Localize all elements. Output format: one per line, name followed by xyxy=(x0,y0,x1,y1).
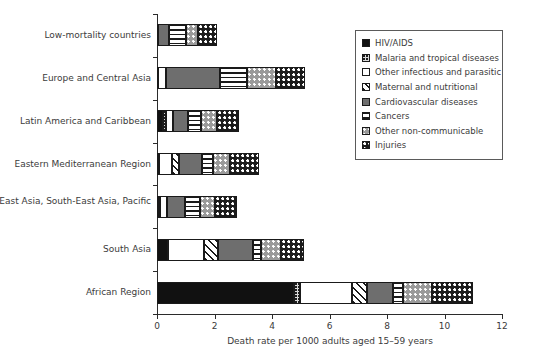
bar-segment-cancers xyxy=(188,110,201,132)
legend-label: Malaria and tropical diseases xyxy=(375,53,499,63)
stacked-bar-chart: 024681012 Low-mortality countriesEurope … xyxy=(0,0,534,359)
bar-segment-other_noncommunicable xyxy=(247,67,276,89)
x-axis-tick-label: 10 xyxy=(425,321,465,331)
bar-segment-cancers xyxy=(169,24,186,46)
x-axis-tick-label: 4 xyxy=(252,321,292,331)
bar-segment-cardiovascular xyxy=(218,239,253,261)
bar-segment-hiv xyxy=(157,282,294,304)
bar-segment-cardiovascular xyxy=(367,282,393,304)
bar-row xyxy=(0,282,534,304)
bar-segment-cancers xyxy=(253,239,262,261)
x-axis-tick-label: 2 xyxy=(195,321,235,331)
bar-segment-cancers xyxy=(202,153,214,175)
bar-segment-cardiovascular xyxy=(158,24,170,46)
legend-swatch-cancers xyxy=(362,112,370,120)
legend-label: Other non-communicable xyxy=(375,126,483,136)
bar-segment-cardiovascular xyxy=(167,196,184,218)
legend-swatch-injuries xyxy=(362,141,370,149)
bar-segment-other_noncommunicable xyxy=(201,110,217,132)
x-axis-title: Death rate per 1000 adults aged 15–59 ye… xyxy=(157,336,503,346)
bar-segment-cancers xyxy=(220,67,247,89)
bar-row xyxy=(0,196,534,218)
bar-segment-other_infectious xyxy=(158,67,167,89)
legend-label: Other infectious and parasitic xyxy=(375,67,501,77)
legend-item-maternal: Maternal and nutritional xyxy=(362,80,496,95)
bar-segment-injuries xyxy=(281,239,303,261)
x-axis-tick-label: 12 xyxy=(482,321,522,331)
x-axis-tick xyxy=(215,315,216,319)
legend-item-hiv: HIV/AIDS xyxy=(362,36,496,51)
legend-label: Injuries xyxy=(375,140,406,150)
bar-segment-cardiovascular xyxy=(166,67,219,89)
bar-segment-other_infectious xyxy=(166,110,173,132)
bar-segment-maternal xyxy=(352,282,368,304)
legend-swatch-other_noncommunicable xyxy=(362,127,370,135)
legend-item-injuries: Injuries xyxy=(362,138,496,153)
bar-segment-hiv xyxy=(157,239,168,261)
bar-segment-injuries xyxy=(215,196,238,218)
legend-item-malaria: Malaria and tropical diseases xyxy=(362,51,496,66)
legend-item-cardiovascular: Cardiovascular diseases xyxy=(362,94,496,109)
x-axis-tick-label: 6 xyxy=(310,321,350,331)
x-axis-tick xyxy=(387,315,388,319)
legend-label: Cardiovascular diseases xyxy=(375,97,478,107)
bar-segment-other_noncommunicable xyxy=(213,153,230,175)
bar-segment-other_infectious xyxy=(160,196,167,218)
x-axis-tick-label: 0 xyxy=(137,321,177,331)
legend-swatch-maternal xyxy=(362,83,370,91)
legend-item-other_infectious: Other infectious and parasitic xyxy=(362,65,496,80)
y-axis-tick xyxy=(153,100,157,101)
legend-label: HIV/AIDS xyxy=(375,38,413,48)
chart-legend: HIV/AIDSMalaria and tropical diseasesOth… xyxy=(355,30,503,160)
y-axis-tick xyxy=(153,14,157,15)
legend-label: Maternal and nutritional xyxy=(375,82,478,92)
bar-segment-injuries xyxy=(276,67,305,89)
bar-segment-injuries xyxy=(217,110,239,132)
legend-item-cancers: Cancers xyxy=(362,109,496,124)
bar-segment-maternal xyxy=(204,239,218,261)
x-axis-tick xyxy=(330,315,331,319)
bar-segment-cancers xyxy=(185,196,201,218)
bar-segment-other_infectious xyxy=(300,282,352,304)
x-axis-tick xyxy=(272,315,273,319)
bar-segment-cardiovascular xyxy=(173,110,188,132)
bar-segment-other_infectious xyxy=(168,239,204,261)
bar-segment-injuries xyxy=(230,153,259,175)
legend-label: Cancers xyxy=(375,111,409,121)
bar-segment-other_noncommunicable xyxy=(200,196,214,218)
bar-segment-other_noncommunicable xyxy=(403,282,432,304)
legend-swatch-hiv xyxy=(362,39,370,47)
y-axis-tick xyxy=(153,57,157,58)
bar-segment-cardiovascular xyxy=(179,153,202,175)
bar-row xyxy=(0,239,534,261)
bar-segment-other_noncommunicable xyxy=(186,24,198,46)
x-axis-tick-label: 8 xyxy=(367,321,407,331)
legend-swatch-other_infectious xyxy=(362,68,370,76)
x-axis-tick xyxy=(157,315,158,319)
y-axis-tick xyxy=(153,143,157,144)
x-axis-tick xyxy=(445,315,446,319)
bar-segment-other_noncommunicable xyxy=(261,239,281,261)
y-axis-tick xyxy=(153,228,157,229)
bar-segment-other_infectious xyxy=(159,153,172,175)
legend-swatch-cardiovascular xyxy=(362,98,370,106)
bar-segment-injuries xyxy=(198,24,218,46)
y-axis-tick xyxy=(153,271,157,272)
legend-item-other_noncommunicable: Other non-communicable xyxy=(362,124,496,139)
y-axis-tick xyxy=(153,185,157,186)
bar-segment-cancers xyxy=(393,282,403,304)
x-axis-tick xyxy=(502,315,503,319)
legend-swatch-malaria xyxy=(362,54,370,62)
bar-segment-injuries xyxy=(432,282,473,304)
